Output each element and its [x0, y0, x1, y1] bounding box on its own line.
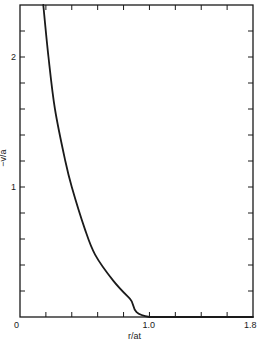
data-curve [43, 5, 253, 317]
y-axis-title: −v/a [0, 149, 8, 166]
y-tick-label-1: 1 [11, 182, 16, 192]
x-tick-label-1-8: 1.8 [244, 320, 257, 330]
x-axis-title: r/at [128, 331, 141, 341]
x-tick-label-0: 0 [14, 320, 19, 330]
chart-canvas [0, 0, 258, 342]
x-tick-label-1-0: 1.0 [142, 320, 155, 330]
plot-frame [20, 5, 253, 317]
y-tick-label-2: 2 [11, 52, 16, 62]
axis-ticks [20, 5, 253, 317]
